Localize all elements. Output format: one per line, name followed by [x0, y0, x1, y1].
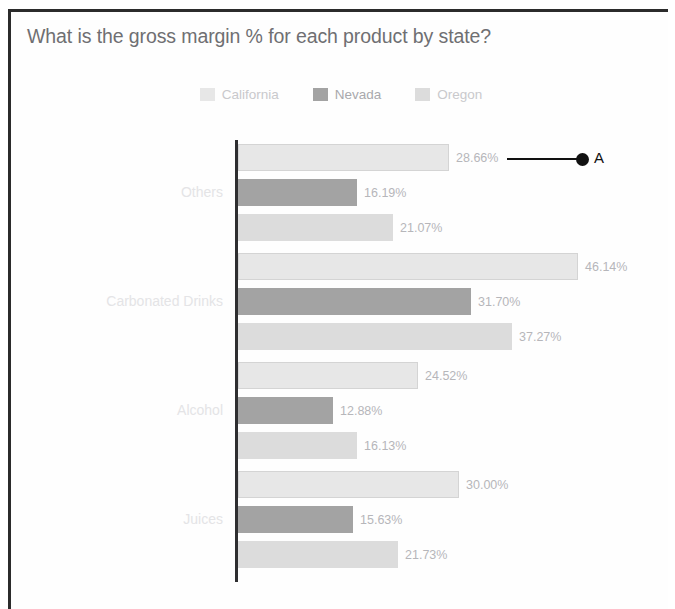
- legend-item-nevada[interactable]: Nevada: [313, 87, 382, 102]
- legend-item-oregon[interactable]: Oregon: [415, 87, 482, 102]
- bar-nevada-alcohol[interactable]: [238, 397, 333, 424]
- legend-label: Nevada: [335, 87, 382, 102]
- bar-california-carbonated-drinks[interactable]: [238, 253, 578, 280]
- annotation-label-a: A: [594, 149, 604, 166]
- bar-value-label: 28.66%: [456, 151, 498, 165]
- category-label-juices: Juices: [11, 511, 235, 527]
- page-title: What is the gross margin % for each prod…: [27, 25, 491, 48]
- bar-value-label: 30.00%: [466, 478, 508, 492]
- bar-california-alcohol[interactable]: [238, 362, 418, 389]
- bar-oregon-juices[interactable]: [238, 541, 398, 568]
- bar-value-label: 21.73%: [405, 548, 447, 562]
- annotation-leader-line: [507, 158, 582, 160]
- bar-nevada-carbonated-drinks[interactable]: [238, 288, 471, 315]
- legend-label: California: [222, 87, 279, 102]
- category-label-carbonated-drinks: Carbonated Drinks: [11, 293, 235, 309]
- bar-value-label: 37.27%: [519, 330, 561, 344]
- bar-value-label: 46.14%: [585, 260, 627, 274]
- category-label-alcohol: Alcohol: [11, 402, 235, 418]
- bar-oregon-others[interactable]: [238, 214, 393, 241]
- bar-oregon-carbonated-drinks[interactable]: [238, 323, 512, 350]
- bar-value-label: 24.52%: [425, 369, 467, 383]
- chart-card: What is the gross margin % for each prod…: [8, 9, 668, 609]
- bar-value-label: 12.88%: [340, 404, 382, 418]
- legend-swatch-icon: [313, 88, 328, 101]
- category-label-others: Others: [11, 184, 235, 200]
- bar-value-label: 31.70%: [478, 295, 520, 309]
- legend-item-california[interactable]: California: [200, 87, 279, 102]
- chart-plot-area: 28.66%16.19%21.07%Others46.14%31.70%37.2…: [11, 130, 671, 590]
- bar-value-label: 15.63%: [360, 513, 402, 527]
- chart-legend: CaliforniaNevadaOregon: [11, 87, 671, 102]
- bar-value-label: 16.13%: [364, 439, 406, 453]
- bar-oregon-alcohol[interactable]: [238, 432, 357, 459]
- bar-value-label: 21.07%: [400, 221, 442, 235]
- legend-label: Oregon: [437, 87, 482, 102]
- legend-swatch-icon: [200, 88, 215, 101]
- annotation-dot-icon[interactable]: [576, 153, 589, 166]
- bar-california-others[interactable]: [238, 144, 449, 171]
- bar-nevada-juices[interactable]: [238, 506, 353, 533]
- bar-california-juices[interactable]: [238, 471, 459, 498]
- bar-nevada-others[interactable]: [238, 179, 357, 206]
- bar-value-label: 16.19%: [364, 186, 406, 200]
- legend-swatch-icon: [415, 88, 430, 101]
